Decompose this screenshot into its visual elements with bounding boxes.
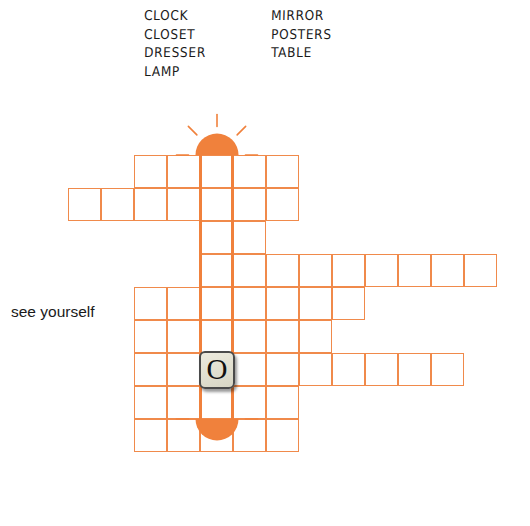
grid-cell[interactable]: [398, 353, 431, 386]
letter-tile-letter: O: [207, 355, 228, 384]
grid-cell[interactable]: [266, 254, 299, 287]
grid-cell[interactable]: [431, 353, 464, 386]
grid-cell[interactable]: [134, 155, 167, 188]
grid-cell[interactable]: [134, 419, 167, 452]
grid-cell[interactable]: [233, 287, 266, 320]
grid-cell[interactable]: [200, 386, 233, 419]
grid-cell[interactable]: [233, 320, 266, 353]
grid-cell[interactable]: [365, 254, 398, 287]
grid-cell[interactable]: [134, 386, 167, 419]
grid-cell[interactable]: [233, 221, 266, 254]
grid-cell[interactable]: [266, 287, 299, 320]
grid-cell[interactable]: [233, 254, 266, 287]
grid-cell[interactable]: [167, 419, 200, 452]
grid-cell[interactable]: [200, 254, 233, 287]
grid-cell[interactable]: [200, 320, 233, 353]
grid-cell[interactable]: [167, 155, 200, 188]
grid-cell[interactable]: [200, 155, 233, 188]
grid-cell[interactable]: [167, 320, 200, 353]
grid-cell[interactable]: [332, 287, 365, 320]
grid-cell[interactable]: [200, 221, 233, 254]
grid-cell[interactable]: [167, 353, 200, 386]
grid-cell[interactable]: [398, 254, 431, 287]
grid-cell[interactable]: [233, 419, 266, 452]
grid-cell[interactable]: [266, 386, 299, 419]
grid-cell[interactable]: [299, 254, 332, 287]
grid-cell[interactable]: [233, 386, 266, 419]
grid-cell[interactable]: [332, 353, 365, 386]
grid-cell[interactable]: [266, 320, 299, 353]
grid-cell[interactable]: [134, 188, 167, 221]
grid-cell[interactable]: [200, 287, 233, 320]
grid-cell[interactable]: [233, 155, 266, 188]
grid-cell[interactable]: [266, 419, 299, 452]
grid-cell[interactable]: [431, 254, 464, 287]
grid-cell[interactable]: [299, 320, 332, 353]
grid-cell[interactable]: [365, 353, 398, 386]
grid-cell[interactable]: [167, 386, 200, 419]
grid-cell[interactable]: [266, 188, 299, 221]
grid-cell[interactable]: [134, 320, 167, 353]
grid-cell[interactable]: [299, 353, 332, 386]
grid-cell[interactable]: [134, 353, 167, 386]
grid-cell[interactable]: [167, 287, 200, 320]
crossword-grid[interactable]: O: [0, 0, 530, 526]
grid-cell[interactable]: [200, 419, 233, 452]
grid-cell[interactable]: [200, 188, 233, 221]
grid-cell[interactable]: [134, 287, 167, 320]
grid-cell[interactable]: [464, 254, 497, 287]
grid-cell[interactable]: [266, 155, 299, 188]
grid-cell[interactable]: [233, 353, 266, 386]
letter-tile[interactable]: O: [199, 351, 235, 389]
grid-cell[interactable]: [332, 254, 365, 287]
grid-cell[interactable]: [167, 188, 200, 221]
grid-cell[interactable]: [101, 188, 134, 221]
grid-cell[interactable]: [266, 353, 299, 386]
crossword-puzzle-page: CLOCK CLOSET DRESSER LAMP MIRROR POSTERS…: [0, 0, 530, 526]
grid-cell[interactable]: [68, 188, 101, 221]
grid-cell[interactable]: [299, 287, 332, 320]
grid-cell[interactable]: [233, 188, 266, 221]
